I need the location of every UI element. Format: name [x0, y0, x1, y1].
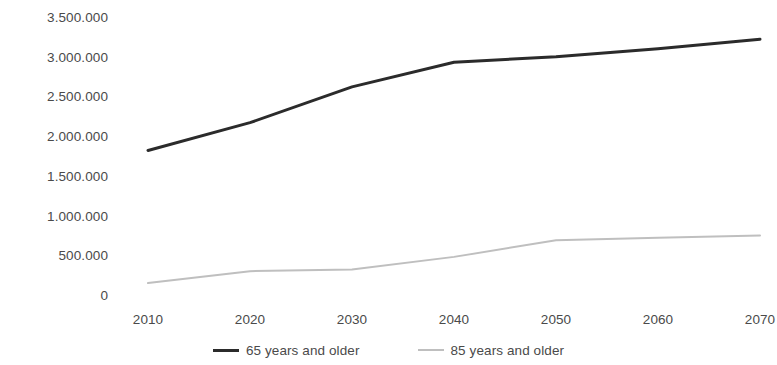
x-axis-tick-label: 2040: [439, 312, 469, 327]
x-axis: 2010202020302040205020602070: [0, 300, 777, 330]
plot-svg: [0, 0, 777, 310]
series-line-65-years-and-older: [148, 39, 760, 150]
x-axis-tick-label: 2030: [337, 312, 367, 327]
legend-label-65-plus: 65 years and older: [246, 343, 360, 358]
x-axis-tick-label: 2070: [745, 312, 775, 327]
legend-entry-65-years-and-older[interactable]: 65 years and older: [213, 343, 360, 358]
x-axis-tick-label: 2050: [541, 312, 571, 327]
x-axis-tick-label: 2010: [133, 312, 163, 327]
plot-area: [0, 0, 777, 310]
chart-legend: 65 years and older 85 years and older: [0, 338, 777, 362]
line-chart: 0500.0001.000.0001.500.0002.000.0002.500…: [0, 0, 777, 365]
x-axis-tick-label: 2060: [643, 312, 673, 327]
legend-line-swatch-65-plus: [213, 349, 239, 352]
legend-entry-85-years-and-older[interactable]: 85 years and older: [418, 343, 565, 358]
x-axis-tick-label: 2020: [235, 312, 265, 327]
series-line-85-years-and-older: [148, 235, 760, 283]
legend-label-85-plus: 85 years and older: [451, 343, 565, 358]
legend-line-swatch-85-plus: [418, 349, 444, 351]
